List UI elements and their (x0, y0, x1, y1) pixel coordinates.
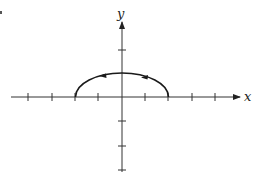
x-axis-label: x (244, 89, 252, 104)
coordinate-graph: x y (0, 0, 255, 180)
y-axis-label: y (116, 6, 125, 21)
direction-arrow-icon (99, 74, 107, 79)
